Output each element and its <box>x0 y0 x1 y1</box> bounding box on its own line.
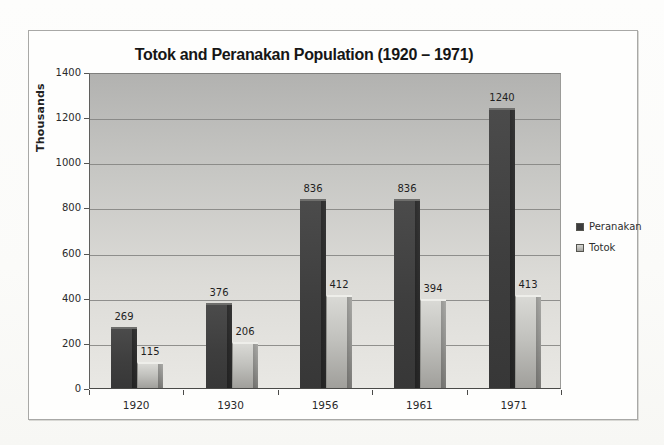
x-tick-mark <box>467 390 468 395</box>
y-tick-label: 200 <box>45 338 81 349</box>
bar-peranakan <box>111 327 137 388</box>
y-tick-mark <box>84 73 89 74</box>
x-tick-label: 1920 <box>106 399 166 411</box>
legend: Peranakan Totok <box>576 221 642 253</box>
x-tick-label: 1930 <box>201 399 261 411</box>
bar-totok <box>326 295 352 388</box>
bar-value-label: 115 <box>128 346 172 357</box>
bar-peranakan <box>206 303 232 388</box>
bar-peranakan <box>300 199 326 388</box>
bar-value-label: 836 <box>385 183 429 194</box>
chart-frame: Totok and Peranakan Population (1920 – 1… <box>28 30 638 420</box>
bar-value-label: 269 <box>102 311 146 322</box>
y-tick-mark <box>84 208 89 209</box>
bar-totok <box>420 299 446 388</box>
y-tick-mark <box>84 118 89 119</box>
y-tick-mark <box>84 163 89 164</box>
y-tick-label: 400 <box>45 293 81 304</box>
y-tick-label: 800 <box>45 202 81 213</box>
y-tick-label: 1400 <box>45 67 81 78</box>
plot-area: 2691153762068364128363941240413 <box>89 73 561 389</box>
bar-totok <box>515 295 541 388</box>
x-tick-mark <box>372 390 373 395</box>
bar-value-label: 394 <box>411 283 455 294</box>
bar-value-label: 836 <box>291 183 335 194</box>
bar-totok <box>232 342 258 388</box>
legend-item-peranakan: Peranakan <box>576 221 642 232</box>
chart-title: Totok and Peranakan Population (1920 – 1… <box>69 46 539 64</box>
x-tick-mark <box>561 390 562 395</box>
bar-value-label: 206 <box>223 326 267 337</box>
x-tick-mark <box>278 390 279 395</box>
y-tick-label: 1000 <box>45 157 81 168</box>
bar-peranakan <box>489 108 515 388</box>
legend-marker-totok <box>576 244 584 252</box>
legend-item-totok: Totok <box>576 242 642 253</box>
y-tick-label: 1200 <box>45 112 81 123</box>
y-tick-mark <box>84 344 89 345</box>
bar-value-label: 1240 <box>480 92 524 103</box>
bar-value-label: 376 <box>197 287 241 298</box>
bar-value-label: 413 <box>506 279 550 290</box>
y-tick-mark <box>84 254 89 255</box>
y-tick-label: 0 <box>45 383 81 394</box>
x-tick-mark <box>183 390 184 395</box>
y-tick-mark <box>84 299 89 300</box>
legend-marker-peranakan <box>576 223 584 231</box>
legend-label-totok: Totok <box>589 242 615 253</box>
x-tick-label: 1961 <box>389 399 449 411</box>
x-tick-label: 1956 <box>295 399 355 411</box>
legend-label-peranakan: Peranakan <box>589 221 642 232</box>
bar-value-label: 412 <box>317 279 361 290</box>
x-tick-label: 1971 <box>484 399 544 411</box>
scanned-page: Totok and Peranakan Population (1920 – 1… <box>0 0 664 445</box>
y-tick-label: 600 <box>45 248 81 259</box>
bar-totok <box>137 362 163 388</box>
x-tick-mark <box>89 390 90 395</box>
